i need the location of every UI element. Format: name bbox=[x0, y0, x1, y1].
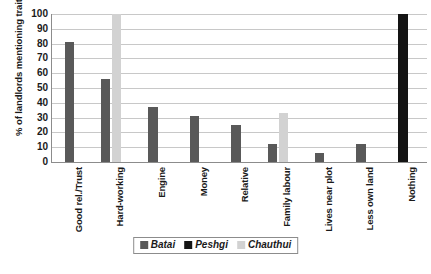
x-axis-tick-label: Relative bbox=[239, 167, 250, 202]
bar bbox=[268, 144, 278, 163]
bar bbox=[231, 125, 241, 162]
legend-item: Peshgi bbox=[184, 240, 228, 250]
bar-chart: % of landlords mentioning trait 01020304… bbox=[0, 0, 431, 274]
gridline bbox=[52, 58, 427, 59]
legend-label: Peshgi bbox=[195, 240, 228, 250]
y-axis-tick-label: 10 bbox=[37, 142, 48, 152]
y-axis-tick-label: 30 bbox=[37, 113, 48, 123]
y-axis-tick-label: 80 bbox=[37, 39, 48, 49]
x-axis-tick-label: Lives near plot bbox=[323, 167, 334, 232]
y-axis-tick-label: 40 bbox=[37, 98, 48, 108]
chart-legend: BataiPeshgiChauthui bbox=[133, 237, 299, 254]
legend-swatch-icon bbox=[140, 241, 148, 249]
y-axis-tick-label: 50 bbox=[37, 83, 48, 93]
gridline bbox=[52, 73, 427, 74]
legend-label: Batai bbox=[151, 240, 175, 250]
bar bbox=[356, 144, 366, 163]
bar bbox=[112, 14, 122, 162]
legend-item: Batai bbox=[140, 240, 175, 250]
gridline bbox=[52, 29, 427, 30]
bar bbox=[315, 153, 325, 162]
x-axis-tick-label: Less own land bbox=[364, 167, 375, 231]
x-axis-tick-label: Good rel./Trust bbox=[73, 167, 84, 232]
x-axis-tick-label: Nothing bbox=[406, 167, 417, 202]
y-axis-tick-label: 90 bbox=[37, 24, 48, 34]
bar bbox=[398, 14, 408, 162]
bar bbox=[279, 113, 289, 162]
bar bbox=[101, 79, 111, 162]
x-axis-tick-label: Engine bbox=[156, 167, 167, 198]
y-axis-tick-label: 60 bbox=[37, 68, 48, 78]
gridline bbox=[52, 44, 427, 45]
legend-label: Chauthui bbox=[248, 240, 291, 250]
y-axis-title: % of landlords mentioning trait bbox=[13, 0, 24, 148]
y-axis-tick-label: 100 bbox=[31, 9, 48, 19]
legend-swatch-icon bbox=[184, 241, 192, 249]
legend-item: Chauthui bbox=[237, 240, 291, 250]
legend-swatch-icon bbox=[237, 241, 245, 249]
y-axis-tick-label: 70 bbox=[37, 53, 48, 63]
y-axis-tick-label: 0 bbox=[42, 157, 48, 167]
plot-area: 0102030405060708090100 bbox=[51, 14, 427, 163]
bar bbox=[148, 107, 158, 162]
gridline bbox=[52, 14, 427, 15]
bar bbox=[65, 42, 75, 162]
x-axis-tick-label: Money bbox=[198, 167, 209, 196]
bar bbox=[190, 116, 200, 162]
y-axis-tick-label: 20 bbox=[37, 127, 48, 137]
x-axis-tick-label: Hard-working bbox=[114, 167, 125, 226]
x-axis-tick-label: Family labour bbox=[281, 167, 292, 227]
